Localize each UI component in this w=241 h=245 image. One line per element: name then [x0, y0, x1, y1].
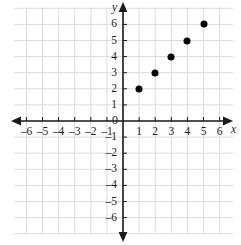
data-point — [136, 85, 143, 92]
data-point — [200, 21, 207, 28]
coordinate-plane-chart: 0 x y –6–5–4–3–2–1123456654321–1–2–3–4–5… — [0, 0, 241, 245]
data-points — [0, 0, 241, 245]
data-point — [152, 69, 159, 76]
data-point — [168, 53, 175, 60]
data-point — [184, 37, 191, 44]
